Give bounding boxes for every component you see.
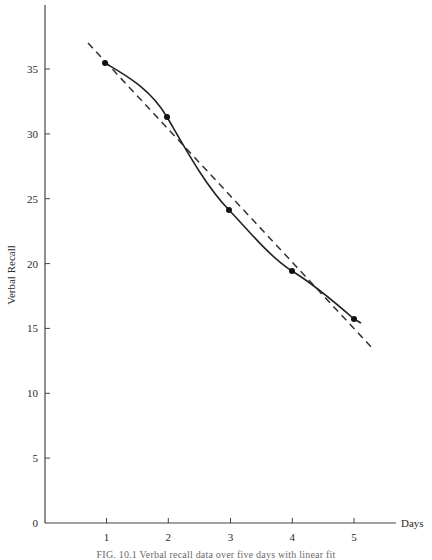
data-point [289,268,295,274]
y-tick-label: 5 [33,452,39,464]
y-tick-label: 25 [27,193,39,205]
y-tick-labels: 0 5 10 15 20 25 30 35 [27,63,39,529]
y-tick-label: 35 [27,63,39,75]
observed-curve [105,63,361,323]
x-tick-label: 4 [290,531,296,543]
y-tick-label: 30 [27,128,39,140]
x-tick-label: 5 [351,531,357,543]
data-point [226,207,232,213]
y-tick-label: 0 [33,517,39,529]
x-tick-label: 3 [228,531,234,543]
data-point [102,60,108,66]
x-axis-title: Days [401,517,424,529]
y-ticks [45,69,50,458]
figure-caption: FIG. 10.1 Verbal recall data over five d… [0,549,432,560]
y-axis-title: Verbal Recall [5,245,17,305]
data-point [164,114,170,120]
x-tick-labels: 1 2 3 4 5 [104,531,358,543]
x-tick-label: 2 [166,531,172,543]
linear-fit-line [88,43,374,350]
data-point [351,316,357,322]
y-tick-label: 20 [27,258,39,270]
x-ticks [107,518,355,523]
y-tick-label: 10 [27,387,39,399]
y-tick-label: 15 [27,322,39,334]
x-tick-label: 1 [104,531,110,543]
